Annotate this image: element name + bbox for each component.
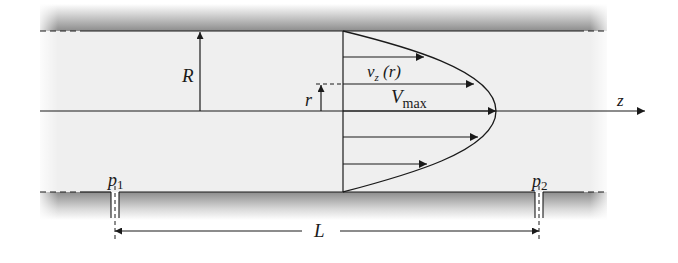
velocity-label: vz (r) bbox=[367, 62, 401, 83]
pipe-flow-diagram: R r vz (r) Vmax z p1 p2 L bbox=[0, 0, 678, 263]
radial-coordinate-label: r bbox=[305, 90, 313, 110]
radius-label: R bbox=[181, 65, 194, 86]
pressure-2-main: p bbox=[530, 171, 541, 191]
z-axis-label: z bbox=[616, 91, 624, 110]
bottom-wall-shade bbox=[40, 192, 607, 220]
top-wall-shade bbox=[40, 4, 607, 31]
pressure-1-sub: 1 bbox=[117, 177, 124, 192]
velocity-label-arg: (r) bbox=[379, 62, 402, 81]
pressure-tap-1 bbox=[111, 186, 119, 240]
length-label: L bbox=[313, 220, 325, 241]
pressure-2-sub: 2 bbox=[541, 178, 548, 193]
pressure-tap-2 bbox=[535, 186, 543, 240]
pressure-1-main: p bbox=[106, 170, 117, 190]
vmax-label-sub: max bbox=[403, 96, 427, 111]
